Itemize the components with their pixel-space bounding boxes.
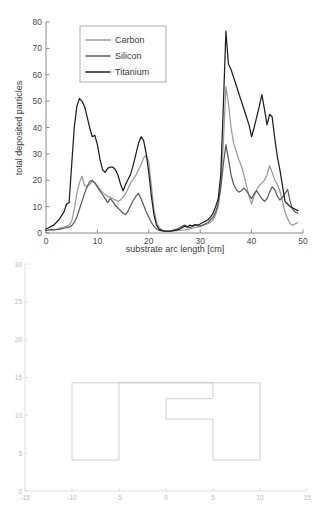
geometry-x-tick-label: 5	[211, 494, 215, 501]
y-tick-label: 40	[33, 123, 43, 133]
chart-legend: CarbonSiliconTitanium	[80, 26, 166, 82]
geometry-y-tick-label: 5	[18, 450, 22, 457]
geometry-y-tick-label: 30	[15, 261, 23, 268]
legend-label-titanium: Titanium	[115, 67, 149, 77]
geometry-y-tick-label: 15	[15, 374, 23, 381]
y-tick-label: 50	[33, 96, 43, 106]
y-tick-label: 10	[33, 202, 43, 212]
geometry-y-tick-label: 10	[15, 412, 23, 419]
legend-label-carbon: Carbon	[115, 35, 145, 45]
series-line-carbon	[46, 87, 298, 232]
y-tick-label: 20	[33, 175, 43, 185]
geometry-y-tick-label: 20	[15, 336, 23, 343]
y-tick-label: 30	[33, 149, 43, 159]
y-axis-ticks: 01020304050607080	[33, 17, 50, 238]
geometry-left-block	[72, 383, 119, 460]
legend-label-silicon: Silicon	[115, 51, 142, 61]
x-tick-label: 20	[144, 236, 154, 246]
geometry-y-axis-ticks: 051015202530	[15, 261, 28, 495]
x-tick-label: 30	[195, 236, 205, 246]
y-axis-title: total deposited particles	[14, 80, 24, 175]
geometry-x-tick-label: -10	[67, 494, 77, 501]
x-tick-label: 40	[247, 236, 257, 246]
geometry-plot-axes	[25, 264, 307, 491]
y-axis-title-group: total deposited particles	[14, 80, 24, 175]
x-tick-label: 50	[298, 236, 308, 246]
geometry-y-tick-label: 25	[15, 298, 23, 305]
substrate-geometry-svg: 051015202530 -15-10-5051015	[0, 260, 322, 520]
figure-root: total deposited particles substrate arc …	[0, 0, 322, 520]
x-tick-label: 0	[44, 236, 49, 246]
geometry-x-tick-label: 15	[303, 494, 311, 501]
deposition-profile-svg: total deposited particles substrate arc …	[0, 0, 322, 260]
x-axis-title: substrate arc length [cm]	[126, 244, 225, 254]
y-tick-label: 80	[33, 17, 43, 27]
geometry-x-tick-label: 0	[164, 494, 168, 501]
deposition-profile-panel: total deposited particles substrate arc …	[0, 0, 322, 260]
series-line-titanium	[46, 31, 298, 231]
geometry-right-notched-block	[119, 383, 260, 460]
geometry-x-tick-label: -15	[20, 494, 30, 501]
x-tick-label: 10	[93, 236, 103, 246]
y-tick-label: 0	[37, 228, 42, 238]
x-axis-title-group: substrate arc length [cm]	[126, 244, 225, 254]
geometry-x-axis-ticks: -15-10-5051015	[20, 488, 311, 501]
y-tick-label: 70	[33, 43, 43, 53]
series-line-silicon	[46, 145, 298, 232]
geometry-outline-group	[72, 383, 260, 460]
y-tick-label: 60	[33, 70, 43, 80]
series-lines	[46, 31, 298, 231]
substrate-geometry-panel: 051015202530 -15-10-5051015	[0, 260, 322, 520]
geometry-x-tick-label: -5	[116, 494, 122, 501]
geometry-x-tick-label: 10	[256, 494, 264, 501]
